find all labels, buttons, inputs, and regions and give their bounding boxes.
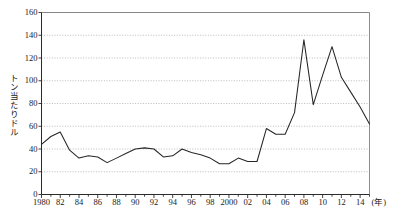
x-axis-tick-label: 2000 xyxy=(217,198,241,207)
gridlines xyxy=(42,13,370,172)
x-axis-tick-label: 82 xyxy=(53,198,67,207)
x-axis-tick-label: 14 xyxy=(353,198,367,207)
x-axis-tick-label: 88 xyxy=(109,198,123,207)
y-axis-tick-label: 20 xyxy=(14,167,38,176)
data-series-line xyxy=(42,40,370,164)
y-axis-tick-label: 120 xyxy=(14,54,38,63)
x-axis-tick-label: 02 xyxy=(241,198,255,207)
x-axis-unit-label: (年) xyxy=(372,198,387,207)
x-axis-tick-label: 12 xyxy=(334,198,348,207)
x-axis-tick-label: 04 xyxy=(259,198,273,207)
x-axis-tick-label: 86 xyxy=(91,198,105,207)
x-axis-tick-label: 94 xyxy=(166,198,180,207)
x-axis-tick-label: 10 xyxy=(316,198,330,207)
x-axis-tick-label: 98 xyxy=(203,198,217,207)
chart-canvas xyxy=(0,0,394,224)
x-axis-tick-label: 84 xyxy=(72,198,86,207)
y-axis-tick-label: 40 xyxy=(14,145,38,154)
y-axis-tick-label: 160 xyxy=(14,8,38,17)
x-axis-tick-label: 96 xyxy=(184,198,198,207)
x-axis-tick-label: 08 xyxy=(297,198,311,207)
y-axis-tick-label: 100 xyxy=(14,76,38,85)
x-axis-tick-label: 90 xyxy=(128,198,142,207)
y-axis-tick-label: 60 xyxy=(14,122,38,131)
x-axis-tick-label: 1980 xyxy=(30,198,54,207)
y-axis-tick-label: 80 xyxy=(14,99,38,108)
x-axis-tick-label: 92 xyxy=(147,198,161,207)
x-axis-tick-label: 06 xyxy=(278,198,292,207)
y-axis-tick-label: 140 xyxy=(14,31,38,40)
price-per-ton-line-chart: トン当たりドル 02040608010012014016019808284868… xyxy=(0,0,394,224)
